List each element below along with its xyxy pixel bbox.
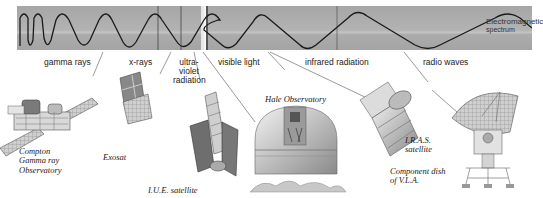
uv-line3: radiation	[173, 76, 205, 85]
band-label-ultraviolet: ultra- violet radiation	[173, 58, 205, 85]
band-label-infrared: infrared radiation	[305, 58, 369, 67]
band-label-radio-waves: radio waves	[423, 58, 468, 67]
exosat-illustration	[120, 72, 152, 124]
caption-iue: I.U.E. satellite	[148, 186, 198, 195]
band-label-gamma-rays: gamma rays	[44, 58, 91, 67]
caption-exosat: Exosat	[103, 153, 126, 162]
caption-hale: Hale Observatory	[265, 95, 326, 104]
caption-iras: I.R.A.S. satellite	[405, 136, 432, 155]
band-label-x-rays: x-rays	[129, 58, 152, 67]
spectrum-band	[17, 6, 532, 50]
spectrum-title: Electromagnetic spectrum	[486, 18, 543, 34]
vla-dish-illustration	[452, 92, 518, 188]
iue-satellite-illustration	[190, 92, 238, 176]
hale-observatory-illustration	[250, 106, 346, 192]
caption-vla: Component dish of V.L.A.	[390, 167, 446, 186]
caption-compton: Compton Gamma ray Observatory	[19, 147, 62, 175]
caption-vla-line2: of V.L.A.	[390, 176, 446, 185]
caption-compton-line3: Observatory	[19, 166, 62, 175]
spectrum-title-line1: Electromagnetic	[486, 18, 543, 26]
caption-iras-line2: satellite	[405, 145, 432, 154]
spectrum-title-line2: spectrum	[486, 26, 543, 33]
band-label-visible-light: visible light	[218, 58, 260, 67]
